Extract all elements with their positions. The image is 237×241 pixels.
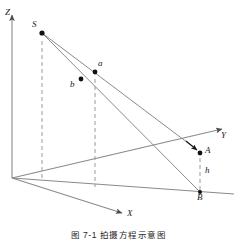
axis-x bbox=[12, 178, 122, 213]
ray-sa-line bbox=[42, 33, 196, 149]
axis-x-line bbox=[12, 178, 122, 213]
ray-s-to-b-to-B bbox=[42, 33, 200, 192]
ray-sb-line bbox=[42, 33, 200, 192]
point-S bbox=[39, 30, 44, 35]
axis-y-line bbox=[12, 129, 222, 178]
point-label-S: S bbox=[32, 20, 37, 29]
point-b bbox=[79, 77, 84, 82]
ray-s-to-a-to-A bbox=[42, 33, 197, 150]
point-a bbox=[93, 70, 98, 75]
point-label-B: B bbox=[197, 193, 203, 202]
measure-label-h: h bbox=[205, 166, 210, 175]
ray-sa-arrow bbox=[186, 141, 197, 150]
diagram-canvas bbox=[0, 0, 237, 241]
axis-y bbox=[12, 129, 222, 178]
axis-label-y: Y bbox=[221, 131, 226, 140]
point-A bbox=[198, 151, 203, 156]
figure-container: Z Y X S a b A B h 图 7-1 拍摄方程示意图 bbox=[0, 0, 237, 241]
point-label-b: b bbox=[70, 80, 75, 89]
axis-label-z: Z bbox=[5, 8, 10, 17]
figure-caption: 图 7-1 拍摄方程示意图 bbox=[0, 228, 237, 240]
point-label-A: A bbox=[205, 146, 211, 155]
point-label-a: a bbox=[98, 59, 103, 68]
axis-label-x: X bbox=[127, 209, 133, 218]
